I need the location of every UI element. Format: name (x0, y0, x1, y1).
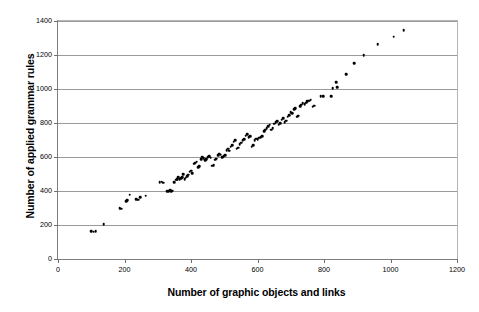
data-point (313, 104, 316, 107)
data-point (377, 43, 380, 46)
data-point (182, 173, 185, 176)
gridline-y-200 (58, 225, 457, 226)
data-point (209, 156, 212, 159)
x-tick-mark (58, 259, 59, 263)
data-point (144, 194, 147, 197)
data-point (345, 73, 348, 76)
data-point (162, 182, 165, 185)
data-point (191, 172, 194, 175)
data-point (102, 223, 105, 226)
data-point (393, 35, 396, 38)
data-point (261, 135, 264, 138)
x-tick-mark (258, 259, 259, 263)
data-point (215, 157, 218, 160)
data-point (363, 54, 366, 57)
y-tick-label: 1400 (22, 16, 52, 25)
data-point (234, 139, 237, 142)
data-point (224, 154, 227, 157)
data-point (266, 127, 269, 130)
data-point (198, 165, 201, 168)
data-point (120, 207, 123, 210)
data-point (129, 193, 132, 196)
data-point (330, 95, 333, 98)
y-tick-label: 0 (22, 254, 52, 263)
data-point (237, 146, 240, 149)
data-point (231, 144, 234, 147)
data-point (269, 123, 272, 126)
x-tick-label: 600 (252, 265, 264, 274)
data-point (403, 29, 406, 32)
y-tick-label: 800 (22, 118, 52, 127)
data-point (240, 141, 243, 144)
scatter-plot-figure: Number of applied grammar rules Number o… (0, 0, 479, 312)
data-point (331, 87, 334, 90)
data-point (322, 95, 325, 98)
x-tick-mark (191, 259, 192, 263)
y-tick-mark (54, 89, 58, 90)
x-tick-mark (125, 259, 126, 263)
data-point (212, 164, 215, 167)
data-point (228, 150, 231, 153)
data-point (336, 86, 339, 89)
x-tick-label: 1000 (383, 265, 399, 274)
y-tick-mark (54, 225, 58, 226)
data-point (294, 107, 297, 110)
data-point (195, 160, 198, 163)
data-point (139, 196, 142, 199)
data-point (252, 144, 255, 147)
y-tick-label: 600 (22, 152, 52, 161)
data-point (271, 127, 274, 130)
data-point (297, 114, 300, 117)
data-point (126, 199, 129, 202)
plot-area: 0200400600800100012001400 02004006008001… (57, 20, 458, 260)
data-point (291, 112, 294, 115)
x-tick-label: 400 (185, 265, 197, 274)
y-tick-mark (54, 123, 58, 124)
data-point (353, 62, 356, 65)
y-tick-mark (54, 191, 58, 192)
gridline-y-600 (58, 157, 457, 158)
data-point (173, 181, 176, 184)
gridline-y-800 (58, 123, 457, 124)
data-point (279, 122, 282, 125)
x-tick-label: 1200 (449, 265, 465, 274)
y-tick-label: 400 (22, 186, 52, 195)
x-tick-label: 200 (119, 265, 131, 274)
y-tick-label: 1200 (22, 50, 52, 59)
gridline-y-400 (58, 191, 457, 192)
gridline-y-1000 (58, 89, 457, 90)
y-tick-mark (54, 21, 58, 22)
y-axis-title: Number of applied grammar rules (24, 26, 36, 246)
x-tick-mark (457, 259, 458, 263)
x-tick-label: 800 (318, 265, 330, 274)
data-point (94, 230, 97, 233)
y-tick-label: 200 (22, 220, 52, 229)
data-point (335, 81, 338, 84)
x-axis-title: Number of graphic objects and links (57, 286, 456, 298)
data-point (243, 138, 246, 141)
x-tick-mark (324, 259, 325, 263)
y-tick-label: 1000 (22, 84, 52, 93)
gridline-y-1400 (58, 21, 457, 22)
y-tick-mark (54, 55, 58, 56)
gridline-y-1200 (58, 55, 457, 56)
data-point (309, 98, 312, 101)
x-tick-mark (391, 259, 392, 263)
data-point (171, 189, 174, 192)
x-tick-label: 0 (56, 265, 60, 274)
data-point (187, 173, 190, 176)
data-point (285, 119, 288, 122)
y-tick-mark (54, 157, 58, 158)
data-point (249, 135, 252, 138)
